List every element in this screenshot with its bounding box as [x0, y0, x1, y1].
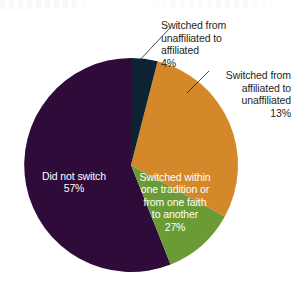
slice-callout-affiliated-to-unaffiliated: Switched from affiliated to unaffiliated…	[166, 57, 291, 131]
slice-callout-text: Switched from unaffiliated to affiliated	[161, 19, 226, 56]
slice-label-did-not-switch: Did not switch 57%	[22, 157, 126, 195]
slice-label-within-tradition: Switched within one tradition or from on…	[126, 158, 224, 234]
slice-label-percent: 27%	[165, 221, 186, 233]
slice-callout-text: Switched from affiliated to unaffiliated	[226, 69, 291, 106]
pie-chart-figure: Switched from unaffiliated to affiliated…	[0, 0, 295, 281]
slice-label-text: Switched within one tradition or from on…	[140, 171, 211, 221]
slice-label-text: Did not switch	[42, 170, 106, 182]
slice-label-percent: 57%	[64, 182, 85, 194]
slice-callout-percent: 13%	[166, 107, 291, 119]
